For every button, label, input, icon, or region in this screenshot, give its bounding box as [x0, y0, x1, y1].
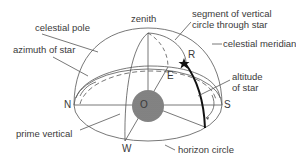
celestial-sphere-diagram: celestial pole azimuth of star zenith se…	[0, 0, 296, 161]
point-observer: O	[140, 99, 148, 110]
label-segment-line1: segment of vertical	[192, 8, 272, 19]
label-azimuth-of-star: azimuth of star	[13, 44, 75, 55]
label-segment-line2: circle through star	[192, 19, 268, 30]
label-celestial-meridian: celestial meridian	[223, 38, 296, 49]
label-celestial-pole: celestial pole	[35, 22, 90, 33]
point-west: W	[122, 143, 132, 154]
point-south: S	[224, 99, 231, 110]
altitude-arc	[206, 95, 214, 118]
prime-vertical-back	[148, 33, 168, 67]
label-zenith: zenith	[131, 13, 156, 24]
label-altitude-line2: of star	[232, 82, 258, 93]
label-horizon-circle: horizon circle	[178, 144, 234, 155]
earth-globe	[132, 90, 164, 122]
label-prime-vertical: prime vertical	[16, 128, 73, 139]
point-east: E	[167, 70, 174, 81]
prime-vertical-arc	[125, 33, 148, 141]
point-star: R	[188, 49, 195, 60]
label-altitude-line1: altitude	[232, 71, 263, 82]
point-north: N	[64, 99, 71, 110]
